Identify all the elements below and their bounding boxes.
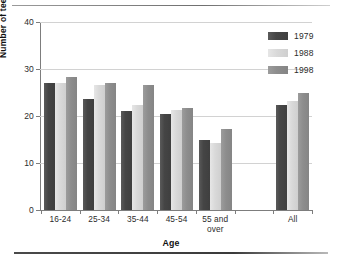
- y-tick-20: [36, 116, 40, 117]
- bar-group-55-and-over: [196, 22, 235, 210]
- x-label-35-44: 35-44: [118, 214, 157, 240]
- dark-gray-swatch: [268, 32, 288, 40]
- x-axis-title: Age: [0, 238, 342, 248]
- y-tick-0: [36, 210, 40, 211]
- legend-item-1988: 1988: [268, 46, 314, 59]
- legend-label-1979: 1979: [294, 31, 314, 41]
- x-label-55-and-over: 55 and over: [196, 214, 235, 240]
- legend-item-1998: 1998: [268, 63, 314, 76]
- bar-1988-16-24: [55, 83, 66, 210]
- x-label-empty: [235, 214, 274, 240]
- bar-1988-All: [287, 101, 298, 211]
- y-axis-title: Number of teeth: [0, 0, 8, 58]
- y-tick-label-40: 40: [0, 17, 34, 27]
- bar-1998-All: [298, 93, 309, 211]
- x-label-25-34: 25-34: [80, 214, 119, 240]
- bar-1988-55-and-over: [210, 143, 221, 210]
- bar-group-25-34: [80, 22, 119, 210]
- page-rule-bottom: [14, 252, 328, 254]
- bar-1979-All: [276, 105, 287, 210]
- bar-group-16-24: [41, 22, 80, 210]
- bar-chart-figure: Number of teeth 010203040 16-2425-3435-4…: [0, 0, 342, 265]
- legend-label-1998: 1998: [294, 65, 314, 75]
- bar-1998-35-44: [143, 85, 154, 210]
- bar-1998-45-54: [182, 108, 193, 210]
- bar-1979-25-34: [83, 99, 94, 210]
- bar-group-35-44: [118, 22, 157, 210]
- page-rule-top: [12, 5, 330, 6]
- x-label-45-54: 45-54: [157, 214, 196, 240]
- bar-1979-55-and-over: [199, 140, 210, 211]
- legend-item-1979: 1979: [268, 29, 314, 42]
- x-label-All: All: [273, 214, 312, 240]
- y-tick-label-0: 0: [0, 205, 34, 215]
- y-tick-30: [36, 69, 40, 70]
- bar-1979-16-24: [44, 83, 55, 210]
- light-gray-swatch: [268, 49, 288, 57]
- bar-1998-16-24: [66, 77, 77, 210]
- y-tick-10: [36, 163, 40, 164]
- bar-1979-45-54: [160, 114, 171, 210]
- y-tick-label-20: 20: [0, 111, 34, 121]
- y-tick-40: [36, 22, 40, 23]
- chart-legend: 197919881998: [268, 29, 314, 80]
- bar-1998-55-and-over: [221, 129, 232, 210]
- legend-label-1988: 1988: [294, 48, 314, 58]
- bar-group-45-54: [157, 22, 196, 210]
- bar-1998-25-34: [105, 83, 116, 210]
- x-label-16-24: 16-24: [41, 214, 80, 240]
- category-tick-7: [312, 210, 313, 214]
- medium-gray-swatch: [268, 66, 288, 74]
- y-tick-label-30: 30: [0, 64, 34, 74]
- x-axis-line: [40, 210, 312, 211]
- x-axis-labels: 16-2425-3435-4445-5455 and overAll: [41, 214, 312, 240]
- bar-1979-35-44: [121, 111, 132, 210]
- bar-1988-35-44: [132, 105, 143, 210]
- bar-1988-25-34: [94, 85, 105, 210]
- y-tick-label-10: 10: [0, 158, 34, 168]
- bar-1988-45-54: [171, 110, 182, 210]
